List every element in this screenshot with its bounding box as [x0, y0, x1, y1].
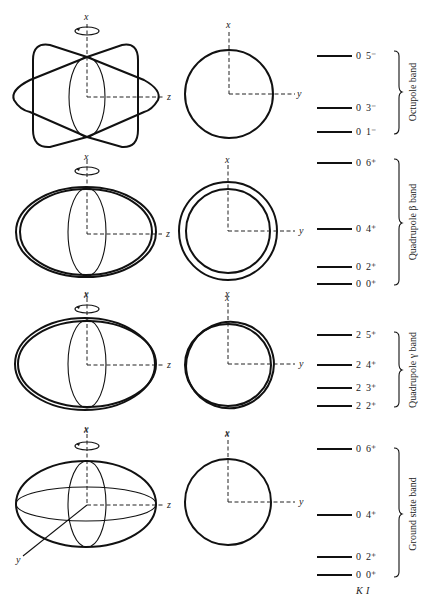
level-k: 0	[356, 157, 361, 168]
level-i: 4⁺	[366, 509, 376, 520]
y-axis-label: y	[298, 496, 304, 507]
x-axis-label: x	[225, 19, 231, 30]
level-k: 0	[356, 261, 361, 272]
level-k: 0	[356, 278, 361, 289]
level-i: 5⁺	[366, 329, 376, 340]
level-i: 4⁺	[366, 223, 376, 234]
x-axis-label: x	[83, 151, 89, 162]
octupole-projection: x y	[185, 19, 302, 138]
level-k: 2	[356, 400, 361, 411]
band-brace	[394, 332, 402, 407]
band-label: Octupole band	[407, 63, 418, 122]
column-label-i: I	[365, 585, 370, 596]
nuclear-deformation-diagram: x z x y 0 5⁻ 0 3⁻ 0	[0, 0, 428, 603]
outer-ellipsoid	[16, 187, 156, 277]
beta-levels: 0 6⁺ 0 4⁺ 0 2⁺ 0 0⁺ Quadrupole β band	[317, 157, 418, 289]
level-i: 2⁺	[366, 551, 376, 562]
z-axis-label: z	[166, 359, 171, 370]
level-i: 6⁺	[366, 443, 376, 454]
level-k: 2	[356, 359, 361, 370]
level-k: 0	[356, 126, 361, 137]
band-label: Ground state band	[407, 477, 418, 550]
level-i: 2⁺	[366, 261, 376, 272]
beta-3d-shape: x z x	[16, 151, 170, 300]
panel-ground-state: x z y x y 0 6⁺ 0 4⁺ 0 2⁺ 0	[15, 424, 418, 596]
band-label: Quadrupole β band	[407, 184, 418, 261]
panel-quadrupole-gamma: x z x x y x 2 5⁺ 2 4⁺ 2 3⁺	[15, 288, 418, 438]
y-axis-label: y	[296, 88, 302, 99]
level-k: 0	[356, 443, 361, 454]
x-axis-label: x	[224, 154, 230, 165]
octupole-levels: 0 5⁻ 0 3⁻ 0 1⁻ Octupole band	[317, 50, 418, 137]
level-k: 0	[356, 50, 361, 61]
x-axis-label: x	[83, 288, 89, 299]
level-i: 5⁻	[366, 50, 376, 61]
level-k: 2	[356, 329, 361, 340]
gamma-levels: 2 5⁺ 2 4⁺ 2 3⁺ 2 2⁺ Quadrupole γ band	[317, 329, 418, 411]
level-k: 0	[356, 509, 361, 520]
octupole-3d-shape: x z	[13, 11, 171, 147]
level-i: 3⁻	[366, 102, 376, 113]
y-axis-label: y	[298, 358, 304, 369]
z-axis-label: z	[165, 228, 170, 239]
ground-levels: 0 6⁺ 0 4⁺ 0 2⁺ 0 0⁺ Ground state band	[317, 443, 418, 580]
equatorial-ellipse	[16, 487, 156, 521]
octupole-lobe-left	[13, 57, 87, 137]
level-k: 0	[356, 223, 361, 234]
panel-quadrupole-beta: x z x x y x 0 6⁺ 0 4⁺ 0 2⁺	[16, 151, 418, 300]
panel-octupole: x z x y 0 5⁻ 0 3⁻ 0	[13, 11, 418, 147]
level-i: 0⁺	[366, 569, 376, 580]
band-brace	[394, 159, 402, 285]
outer-ellipsoid	[16, 461, 156, 547]
band-label: Quadrupole γ band	[407, 332, 418, 408]
x-axis-label: x	[224, 428, 230, 439]
band-brace	[394, 51, 402, 134]
y-axis-label: y	[298, 225, 304, 236]
level-k: 0	[356, 102, 361, 113]
z-axis-label: z	[166, 499, 171, 510]
band-brace	[394, 448, 402, 577]
inner-ellipsoid	[20, 189, 152, 275]
x-axis-label: x	[224, 292, 230, 303]
column-label-k: K	[355, 585, 364, 596]
x-axis-label: x	[83, 11, 89, 22]
x-axis-label: x	[83, 424, 89, 435]
level-i: 6⁺	[366, 157, 376, 168]
y-axis-label: y	[15, 554, 21, 565]
beta-projection: x y x	[179, 154, 304, 299]
ground-projection: x y	[185, 428, 304, 545]
level-i: 4⁺	[366, 359, 376, 370]
ground-3d-shape: x z y	[15, 424, 171, 565]
level-i: 2⁺	[366, 400, 376, 411]
level-k: 0	[356, 569, 361, 580]
gamma-3d-shape: x z x	[15, 288, 171, 434]
y-axis-line	[23, 505, 87, 556]
level-i: 1⁻	[366, 126, 376, 137]
gamma-projection: x y x	[172, 292, 304, 438]
level-k: 2	[356, 382, 361, 393]
level-k: 0	[356, 551, 361, 562]
level-i: 0⁺	[366, 278, 376, 289]
level-i: 3⁺	[366, 382, 376, 393]
z-axis-label: z	[166, 91, 171, 102]
